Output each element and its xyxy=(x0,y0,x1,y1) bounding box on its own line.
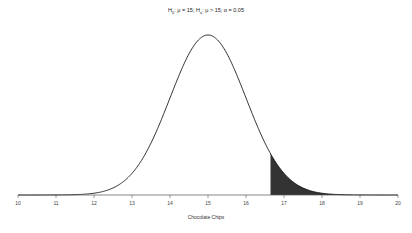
x-axis-label: Chocolate Chips xyxy=(0,214,412,220)
x-tick-label: 20 xyxy=(395,200,401,206)
x-tick-label: 13 xyxy=(129,200,135,206)
x-tick-label: 14 xyxy=(167,200,173,206)
h0-text: : μ = 15; xyxy=(174,7,196,13)
x-tick-label: 18 xyxy=(319,200,325,206)
x-tick-label: 15 xyxy=(205,200,211,206)
x-tick-label: 17 xyxy=(281,200,287,206)
x-tick-label: 16 xyxy=(243,200,249,206)
x-tick-label: 12 xyxy=(91,200,97,206)
chart-title: H0: μ = 15; Ha: μ > 15; α = 0.05 xyxy=(0,7,412,15)
x-tick-label: 10 xyxy=(15,200,21,206)
x-tick-label: 11 xyxy=(53,200,58,206)
rejection-region xyxy=(271,154,398,195)
x-tick-label: 19 xyxy=(357,200,363,206)
x-axis-ticks: 1011121314151617181920 xyxy=(15,195,401,206)
normal-curve-chart: 1011121314151617181920 xyxy=(0,0,412,233)
ha-text: : μ > 15; α = 0.05 xyxy=(202,7,244,13)
density-curve xyxy=(18,35,398,195)
